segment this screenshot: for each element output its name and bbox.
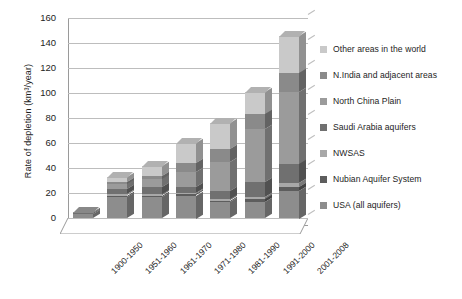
bar-segment <box>279 73 299 92</box>
stacked-bar-chart: Rate of depletion (km³/year) 02040608010… <box>0 0 462 299</box>
bar-segment <box>210 123 230 149</box>
y-tick-60: 60 <box>12 137 56 148</box>
legend-item[interactable]: Saudi Arabia aquifers <box>320 114 460 140</box>
legend-item[interactable]: Other areas in the world <box>320 36 460 62</box>
legend-label: Other areas in the world <box>333 44 426 54</box>
legend-swatch-icon <box>320 124 327 131</box>
bar-segment-side <box>127 192 134 218</box>
gridline-80 <box>68 118 308 119</box>
bar-segment <box>176 143 196 163</box>
bar-segment <box>279 164 299 183</box>
plot-floor <box>60 218 308 234</box>
bar-1961-1970[interactable] <box>142 166 162 219</box>
legend-label: Saudi Arabia aquifers <box>333 122 416 132</box>
bar-segment <box>245 129 265 182</box>
gridline-100 <box>68 93 308 94</box>
x-tick-1991-2000: 1991-2000 <box>280 240 316 276</box>
bar-1900-1950[interactable] <box>73 212 93 218</box>
x-tick-1961-1970: 1961-1970 <box>178 240 214 276</box>
bar-segment <box>245 92 265 115</box>
y-tick-100: 100 <box>12 87 56 98</box>
bar-segment <box>210 202 230 218</box>
x-tick-1981-1990: 1981-1990 <box>246 240 282 276</box>
bar-1991-2000[interactable] <box>245 92 265 218</box>
bar-segment <box>210 162 230 191</box>
legend-swatch-icon <box>320 98 327 105</box>
gridline-140 <box>68 43 308 44</box>
y-tick-140: 140 <box>12 37 56 48</box>
bar-segment-side <box>299 186 306 218</box>
bar-segment <box>176 196 196 219</box>
legend-swatch-icon <box>320 72 327 79</box>
chart-legend: Other areas in the worldN.India and adja… <box>320 36 460 218</box>
gridline-120 <box>68 68 308 69</box>
legend-swatch-icon <box>320 150 327 157</box>
legend-item[interactable]: NWSAS <box>320 140 460 166</box>
bar-segment <box>176 172 196 187</box>
y-tick-0: 0 <box>12 212 56 223</box>
x-tick-1951-1960: 1951-1960 <box>143 240 179 276</box>
legend-label: NWSAS <box>333 148 365 158</box>
bar-2001-2008[interactable] <box>279 36 299 219</box>
legend-item[interactable]: North China Plain <box>320 88 460 114</box>
bar-segment-side <box>196 191 203 218</box>
bar-segment <box>279 36 299 74</box>
bar-segment <box>142 187 162 195</box>
legend-swatch-icon <box>320 202 327 209</box>
bar-1951-1960[interactable] <box>107 177 127 218</box>
bar-1981-1990[interactable] <box>210 123 230 218</box>
legend-item[interactable]: N.India and adjacent areas <box>320 62 460 88</box>
legend-item[interactable]: USA (all aquifers) <box>320 192 460 218</box>
bar-segment <box>279 191 299 219</box>
bar-segment <box>245 182 265 197</box>
bar-segment-side <box>265 125 272 182</box>
bar-segment <box>107 197 127 218</box>
y-tick-120: 120 <box>12 62 56 73</box>
y-tick-160: 160 <box>12 12 56 23</box>
legend-label: N.India and adjacent areas <box>333 70 437 80</box>
bar-segment-side <box>299 87 306 164</box>
plot-area: 020406080100120140160 1900-19501951-1960… <box>60 18 308 234</box>
bar-1971-1980[interactable] <box>176 143 196 218</box>
legend-label: Nubian Aquifer System <box>333 174 421 184</box>
bar-segment <box>73 214 93 218</box>
legend-item[interactable]: Nubian Aquifer System <box>320 166 460 192</box>
bar-segment <box>142 197 162 218</box>
bar-segment <box>210 191 230 200</box>
x-tick-2001-2008: 2001-2008 <box>315 240 351 276</box>
legend-swatch-icon <box>320 46 327 53</box>
gridline-160 <box>68 18 308 19</box>
x-tick-1900-1950: 1900-1950 <box>109 240 145 276</box>
bar-segment-side <box>299 31 306 73</box>
bar-segment <box>245 114 265 129</box>
legend-label: North China Plain <box>333 96 401 106</box>
bar-segment <box>176 163 196 172</box>
y-tick-80: 80 <box>12 112 56 123</box>
x-tick-1971-1980: 1971-1980 <box>212 240 248 276</box>
bar-segment <box>142 179 162 187</box>
bar-segment <box>142 166 162 176</box>
bar-segment-side <box>162 192 169 218</box>
y-tick-40: 40 <box>12 162 56 173</box>
legend-swatch-icon <box>320 176 327 183</box>
y-tick-20: 20 <box>12 187 56 198</box>
bar-segment <box>245 202 265 218</box>
legend-label: USA (all aquifers) <box>333 200 401 210</box>
gridline-0 <box>68 218 308 219</box>
bar-segment <box>210 149 230 162</box>
bar-segment <box>279 92 299 165</box>
